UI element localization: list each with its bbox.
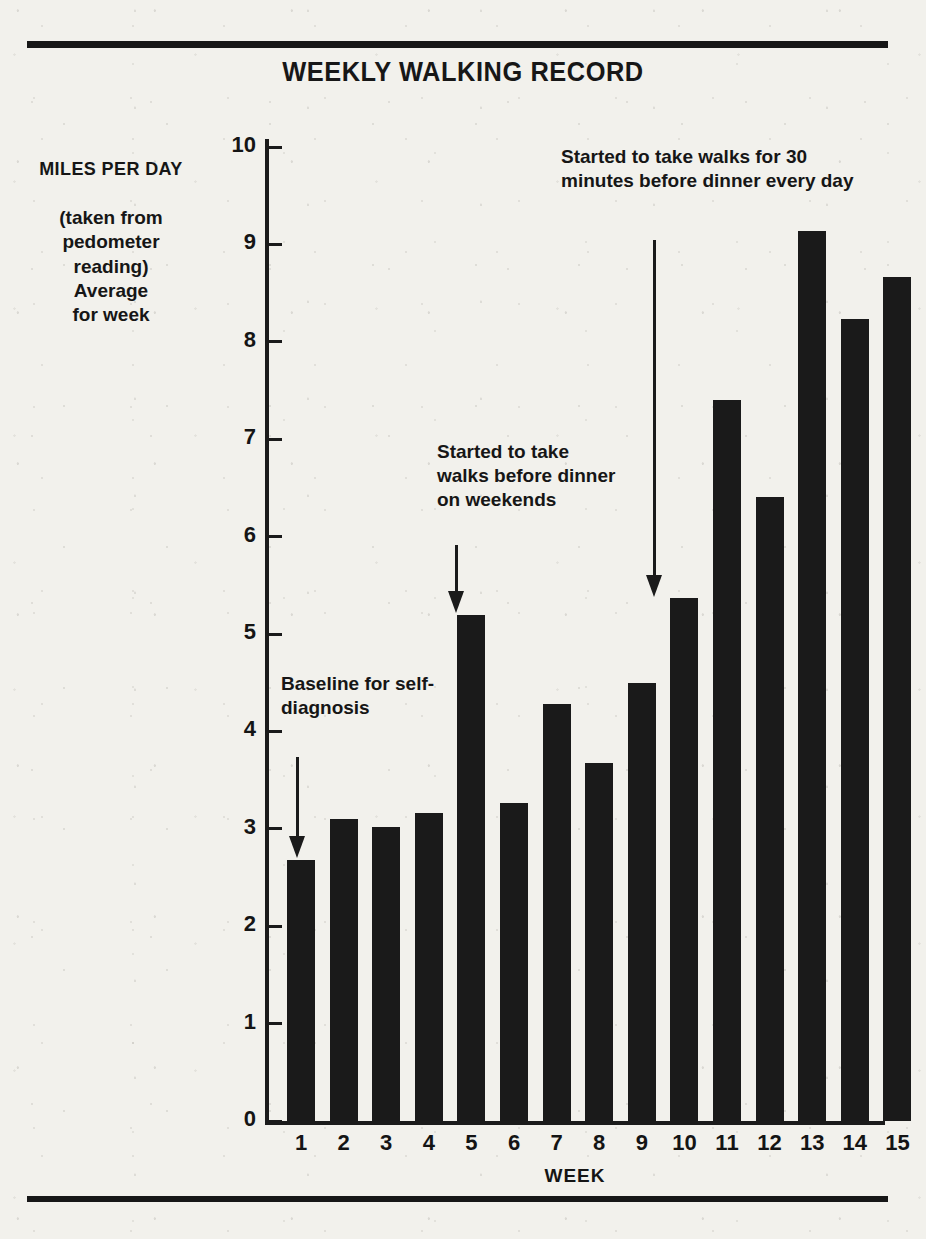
x-axis-tick-label: 14 — [831, 1130, 879, 1156]
y-axis-tick — [269, 438, 282, 441]
y-axis-tick-label-wrap: 3 — [212, 814, 256, 840]
y-axis-tick-label: 6 — [212, 522, 256, 548]
x-axis-tick-label: 13 — [788, 1130, 836, 1156]
x-axis-tick-label: 4 — [405, 1130, 453, 1156]
x-axis-title: WEEK — [265, 1165, 885, 1187]
bottom-divider-rule — [27, 1196, 888, 1202]
x-axis-tick-label: 10 — [660, 1130, 708, 1156]
x-axis-tick-label: 9 — [618, 1130, 666, 1156]
annotation-baseline-arrow-icon — [289, 757, 305, 858]
x-axis-tick-label: 6 — [490, 1130, 538, 1156]
annotation-baseline-text: Baseline for self-diagnosis — [281, 672, 456, 720]
bar-week-3 — [372, 827, 400, 1121]
annotation-weekend-text: Started to take walks before dinner on w… — [437, 440, 617, 512]
y-axis-tick-label: 0 — [212, 1106, 256, 1132]
bar-week-11 — [713, 400, 741, 1121]
y-axis-tick-label: 7 — [212, 424, 256, 450]
y-axis-tick-label: 2 — [212, 911, 256, 937]
bar-week-14 — [841, 319, 869, 1121]
x-axis-tick-label: 15 — [873, 1130, 921, 1156]
y-axis-tick-label-wrap: 6 — [212, 522, 256, 548]
y-axis-tick-label: 4 — [212, 716, 256, 742]
bar-week-7 — [543, 704, 571, 1121]
y-axis-tick-label-wrap: 10 — [212, 132, 256, 158]
y-axis-tick-label: 3 — [212, 814, 256, 840]
x-axis-tick-label: 2 — [320, 1130, 368, 1156]
x-axis-tick-label: 12 — [746, 1130, 794, 1156]
bar-week-6 — [500, 803, 528, 1121]
x-axis-tick-label: 5 — [447, 1130, 495, 1156]
x-axis-line — [265, 1121, 885, 1125]
y-axis-tick — [269, 535, 282, 538]
y-axis-tick-label-wrap: 7 — [212, 424, 256, 450]
x-axis-tick-label: 7 — [533, 1130, 581, 1156]
y-axis-tick — [269, 1022, 282, 1025]
bar-week-10 — [670, 598, 698, 1121]
annotation-weekend-arrow-icon — [448, 545, 464, 613]
bar-week-13 — [798, 231, 826, 1121]
y-axis-tick — [269, 633, 282, 636]
y-axis-tick — [269, 1120, 282, 1123]
y-axis-tick-label-wrap: 2 — [212, 911, 256, 937]
y-axis-tick-label: 9 — [212, 229, 256, 255]
x-axis-tick-label: 3 — [362, 1130, 410, 1156]
bar-week-2 — [330, 819, 358, 1121]
y-axis-tick-label-wrap: 0 — [212, 1106, 256, 1132]
bar-week-9 — [628, 683, 656, 1121]
x-axis-tick-label: 8 — [575, 1130, 623, 1156]
bar-week-5 — [457, 615, 485, 1121]
y-axis-tick — [269, 146, 282, 149]
annotation-daily-arrow-icon — [646, 240, 662, 597]
bar-week-1 — [287, 860, 315, 1121]
y-axis-tick — [269, 925, 282, 928]
y-axis-tick-label: 1 — [212, 1009, 256, 1035]
y-axis-tick-label-wrap: 1 — [212, 1009, 256, 1035]
y-axis-tick — [269, 827, 282, 830]
y-axis-tick-label: 8 — [212, 327, 256, 353]
y-axis-tick — [269, 243, 282, 246]
bar-week-4 — [415, 813, 443, 1121]
y-axis-tick-label-wrap: 5 — [212, 619, 256, 645]
y-axis-tick-label-wrap: 8 — [212, 327, 256, 353]
bar-week-12 — [756, 497, 784, 1121]
x-axis-tick-label: 1 — [277, 1130, 325, 1156]
y-axis-tick-label-wrap: 4 — [212, 716, 256, 742]
y-axis-tick — [269, 730, 282, 733]
y-axis-tick-label-wrap: 9 — [212, 229, 256, 255]
y-axis-tick-label: 10 — [212, 132, 256, 158]
bar-week-15 — [883, 277, 911, 1121]
bar-week-8 — [585, 763, 613, 1121]
annotation-daily-text: Started to take walks for 30 minutes bef… — [561, 145, 871, 193]
x-axis-tick-label: 11 — [703, 1130, 751, 1156]
y-axis-tick-label: 5 — [212, 619, 256, 645]
y-axis-tick — [269, 340, 282, 343]
